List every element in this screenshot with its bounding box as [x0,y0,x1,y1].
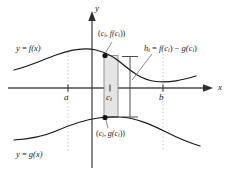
point-top-marker [102,53,107,58]
point-top-close: )) [120,29,125,38]
curve-f-label: y = f(x) [16,44,41,53]
curve-g-label-fn: g(x) [29,149,43,159]
height-label: hi = f(ci) − g(ci) [144,44,197,53]
tick-label-b: b [159,93,164,102]
x-axis-arrow-icon [203,84,213,91]
curve-f-label-eq: = [20,43,29,53]
point-bottom-close: )) [120,129,125,138]
height-label-f: f(c [159,43,168,53]
tick-label-a: a [64,93,69,102]
point-bottom-marker [102,115,107,120]
height-leader-line [132,54,152,80]
point-bottom-g: g(c [108,129,118,138]
top-point-leader-line [106,42,112,52]
x-axis-label: x [218,83,222,92]
representative-rectangle [104,56,118,118]
tick-label-ci-sub: i [110,95,112,102]
y-axis-label: y [95,4,99,13]
point-top-label: (ci, f(ci)) [98,30,125,39]
curve-f-label-fn: f(x) [29,43,41,53]
curve-g-label-eq: = [20,149,29,159]
height-label-eq: = [150,43,159,53]
area-between-curves-figure: y x y = f(x) y = g(x) a b ci (ci, f(ci))… [0,0,235,172]
height-label-g: g(c [182,43,193,53]
height-label-minus: ) − [170,43,182,53]
point-bottom-label: (ci, g(ci)) [96,130,125,139]
bottom-point-leader-line [106,120,108,128]
diagram-canvas [0,0,235,172]
tick-label-ci: ci [106,93,112,103]
curve-g-label: y = g(x) [16,150,43,159]
height-label-close: ) [194,43,197,53]
